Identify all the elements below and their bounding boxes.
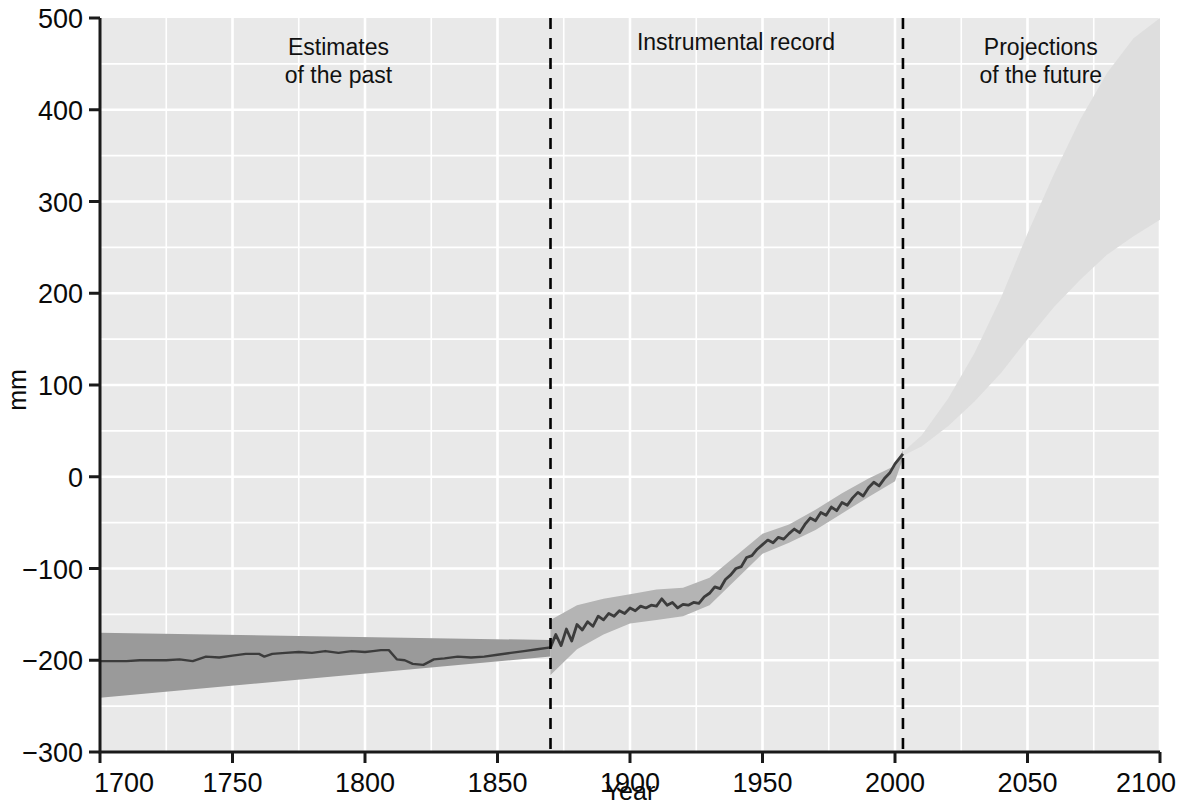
x-tick-label: 2100 xyxy=(1116,768,1176,798)
x-tick-label: 1750 xyxy=(202,768,262,798)
y-tick-label: 100 xyxy=(38,371,83,401)
y-tick-label: −300 xyxy=(22,738,83,768)
x-tick-label: 2000 xyxy=(865,768,925,798)
y-tick-label: −100 xyxy=(22,555,83,585)
x-tick-label: 1700 xyxy=(94,768,154,798)
sea-level-chart: −300−200−1000100200300400500170017501800… xyxy=(0,0,1201,809)
y-tick-label: −200 xyxy=(22,646,83,676)
x-tick-label: 1850 xyxy=(467,768,527,798)
x-tick-label: 2050 xyxy=(997,768,1057,798)
y-tick-label: 500 xyxy=(38,4,83,34)
y-tick-label: 300 xyxy=(38,188,83,218)
chart-figure: −300−200−1000100200300400500170017501800… xyxy=(0,0,1201,809)
y-tick-label: 0 xyxy=(68,463,83,493)
y-tick-label: 400 xyxy=(38,96,83,126)
x-axis-title: Year xyxy=(605,777,656,805)
y-axis-title: mm xyxy=(3,369,31,411)
annotation-instrumental: Instrumental record xyxy=(637,29,835,55)
x-tick-label: 1800 xyxy=(335,768,395,798)
x-tick-label: 1950 xyxy=(732,768,792,798)
y-tick-label: 200 xyxy=(38,279,83,309)
